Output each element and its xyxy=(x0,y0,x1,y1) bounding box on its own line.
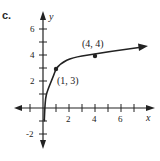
point-4-4 xyxy=(93,54,97,58)
y-tick-label: 4 xyxy=(30,50,35,60)
arrow-left-icon xyxy=(14,105,22,111)
x-axis-label: x xyxy=(145,112,151,123)
arrow-down-icon xyxy=(40,140,46,149)
arrow-right-curve-icon xyxy=(138,44,148,52)
point-1-3 xyxy=(54,67,58,71)
y-tick-label: -2 xyxy=(26,129,34,139)
arrow-right-icon xyxy=(146,105,155,111)
annotation-1-3: (1, 3) xyxy=(57,75,79,87)
y-tick-label: 2 xyxy=(30,76,35,86)
y-axis-label: y xyxy=(48,11,54,22)
arrow-up-icon xyxy=(40,11,46,20)
curve: (1, 3) (4, 4) xyxy=(43,38,148,122)
part-label: c. xyxy=(2,9,11,21)
x-tick-label: 6 xyxy=(118,114,123,124)
x-tick-label: 2 xyxy=(66,114,71,124)
annotation-4-4: (4, 4) xyxy=(82,38,104,50)
x-axis: 2 4 6 x xyxy=(14,104,155,124)
x-tick-label: 4 xyxy=(92,114,97,124)
y-tick-label: 6 xyxy=(30,24,35,34)
y-axis: 6 4 2 -2 y xyxy=(26,11,54,149)
graph: c. 2 4 6 x xyxy=(0,0,160,161)
